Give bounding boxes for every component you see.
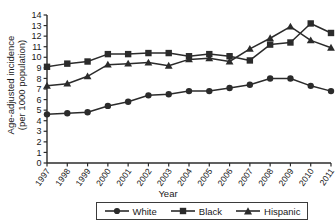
data-point-triangle xyxy=(287,23,295,30)
legend-item-hispanic[interactable]: Hispanic xyxy=(233,205,302,217)
x-axis-tick-label: 2001 xyxy=(114,166,133,188)
x-axis-tick-label: 2007 xyxy=(236,166,255,188)
data-point-circle xyxy=(84,109,90,115)
data-point-triangle xyxy=(246,45,254,52)
data-point-square xyxy=(84,58,90,64)
data-point-circle xyxy=(328,88,334,94)
x-axis-tick-label: 2005 xyxy=(195,166,214,188)
data-point-square xyxy=(267,41,273,47)
data-point-circle xyxy=(145,92,151,98)
legend-item-white[interactable]: White xyxy=(102,205,159,217)
data-point-triangle xyxy=(307,36,315,43)
legend-marker-circle-icon xyxy=(104,205,130,217)
data-point-circle xyxy=(308,83,314,89)
y-axis-tick-label: 9 xyxy=(36,63,41,73)
chart-legend: White Black Hispanic xyxy=(96,202,308,220)
y-axis-tick-label: 0 xyxy=(36,158,41,168)
data-point-square xyxy=(328,30,334,36)
x-axis-tick-label: 2003 xyxy=(155,166,174,188)
data-point-triangle xyxy=(266,34,274,41)
data-point-square xyxy=(247,57,253,63)
legend-label-black: Black xyxy=(199,206,222,217)
x-axis-tick-label: 2008 xyxy=(256,166,275,188)
data-point-circle xyxy=(267,75,273,81)
data-point-circle xyxy=(226,85,232,91)
data-point-circle xyxy=(206,88,212,94)
data-point-circle xyxy=(125,98,131,104)
x-axis-tick-label: 2000 xyxy=(94,166,113,188)
y-axis-tick-label: 1 xyxy=(36,148,41,158)
data-point-square xyxy=(166,50,172,56)
data-point-square xyxy=(287,39,293,45)
y-axis-tick-label: 7 xyxy=(36,84,41,94)
x-axis-tick-label: 1999 xyxy=(74,166,93,188)
legend-marker-square-icon xyxy=(170,205,196,217)
data-point-circle xyxy=(247,82,253,88)
data-point-circle xyxy=(64,110,70,116)
y-axis-tick-label: 10 xyxy=(31,52,41,62)
data-point-circle xyxy=(186,88,192,94)
x-axis-tick-label: 2006 xyxy=(216,166,235,188)
data-point-circle xyxy=(105,103,111,109)
y-axis-tick-label: 6 xyxy=(36,95,41,105)
data-point-square xyxy=(308,20,314,26)
data-point-square xyxy=(125,51,131,57)
data-point-circle xyxy=(44,111,50,117)
data-point-circle xyxy=(287,75,293,81)
legend-item-black[interactable]: Black xyxy=(168,205,224,217)
chart-plot-area: 0123456789101112131419971998199920002001… xyxy=(0,0,336,200)
y-axis-tick-label: 2 xyxy=(36,137,41,147)
series-white xyxy=(44,75,334,117)
y-axis-tick-label: 12 xyxy=(31,31,41,41)
x-axis-tick-label: 2010 xyxy=(297,166,316,188)
x-axis-tick-label: 2009 xyxy=(276,166,295,188)
legend-label-hispanic: Hispanic xyxy=(264,206,300,217)
y-axis-tick-label: 8 xyxy=(36,74,41,84)
x-axis-tick-label: 2011 xyxy=(317,166,336,187)
data-point-square xyxy=(105,51,111,57)
x-axis-tick-label: 1998 xyxy=(53,166,72,188)
x-axis-tick-label: 2002 xyxy=(134,166,153,188)
data-point-triangle xyxy=(84,72,92,79)
legend-marker-triangle-icon xyxy=(235,205,261,217)
data-point-square xyxy=(64,60,70,66)
y-axis-tick-label: 5 xyxy=(36,105,41,115)
x-axis-tick-label: 2004 xyxy=(175,166,194,188)
y-axis-tick-label: 11 xyxy=(32,42,41,52)
x-axis-tick-label: 1997 xyxy=(33,166,52,188)
y-axis-tick-label: 4 xyxy=(36,116,41,126)
data-point-square xyxy=(145,50,151,56)
data-point-square xyxy=(44,64,50,70)
y-axis-tick-label: 3 xyxy=(36,126,41,136)
y-axis-tick-label: 14 xyxy=(31,10,41,20)
x-axis-title: Year xyxy=(0,188,336,199)
series-line xyxy=(47,78,331,114)
chart-figure: Age-adjusted incidence (per 1000 populat… xyxy=(0,0,336,223)
y-axis-tick-label: 13 xyxy=(31,21,41,31)
data-point-circle xyxy=(166,91,172,97)
legend-label-white: White xyxy=(133,206,157,217)
